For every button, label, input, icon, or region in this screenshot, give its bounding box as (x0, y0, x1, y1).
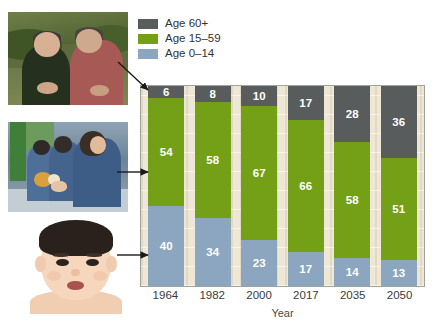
table-row: 28 58 14 (334, 86, 370, 286)
bar-segment-young: 34 (195, 218, 231, 286)
bar-segment-old: 28 (334, 86, 370, 142)
x-tick-2017: 2017 (288, 289, 324, 301)
bar-segment-young: 40 (148, 206, 184, 286)
bar-segment-young: 17 (288, 252, 324, 286)
legend-swatch-age-60-plus (138, 19, 158, 29)
legend-swatch-age-0-14 (138, 49, 158, 59)
bar-segment-old: 36 (381, 86, 417, 158)
bar-segment-young: 13 (381, 260, 417, 286)
x-tick-2000: 2000 (241, 289, 277, 301)
x-tick-1964: 1964 (147, 289, 183, 301)
legend-item-age-0-14: Age 0–14 (138, 46, 221, 61)
legend-label-age-0-14: Age 0–14 (165, 48, 214, 60)
bar-segment-adult: 58 (334, 142, 370, 258)
bar-segment-adult: 51 (381, 158, 417, 260)
stacked-bar-chart: 6 54 40 8 58 34 10 67 23 17 66 17 28 58 … (140, 85, 425, 287)
legend-swatch-age-15-59 (138, 34, 158, 44)
table-row: 36 51 13 (381, 86, 417, 286)
table-row: 6 54 40 (148, 86, 184, 286)
bar-segment-young: 23 (241, 240, 277, 286)
bar-segment-old: 6 (148, 86, 184, 98)
bar-segment-adult: 66 (288, 120, 324, 252)
legend-label-age-60-plus: Age 60+ (165, 18, 208, 30)
legend-item-age-15-59: Age 15–59 (138, 31, 221, 46)
bar-segment-adult: 58 (195, 102, 231, 218)
legend-item-age-60-plus: Age 60+ (138, 16, 221, 31)
bar-segment-old: 8 (195, 86, 231, 102)
legend-label-age-15-59: Age 15–59 (165, 33, 221, 45)
table-row: 10 67 23 (241, 86, 277, 286)
x-axis-title: Year (140, 307, 425, 319)
elderly-women-photo (8, 12, 128, 105)
bar-segment-adult: 54 (148, 98, 184, 206)
bar-segment-adult: 67 (241, 106, 277, 240)
bar-segment-old: 10 (241, 86, 277, 106)
baby-photo (24, 214, 128, 314)
bar-segment-young: 14 (334, 258, 370, 286)
x-tick-1982: 1982 (194, 289, 230, 301)
bar-group: 6 54 40 8 58 34 10 67 23 17 66 17 28 58 … (141, 86, 424, 286)
x-tick-2050: 2050 (382, 289, 418, 301)
factory-workers-photo (8, 122, 128, 212)
table-row: 17 66 17 (288, 86, 324, 286)
x-tick-2035: 2035 (335, 289, 371, 301)
chart-legend: Age 60+ Age 15–59 Age 0–14 (138, 16, 221, 61)
x-axis-tick-labels: 1964 1982 2000 2017 2035 2050 (140, 289, 425, 301)
bar-segment-old: 17 (288, 86, 324, 120)
table-row: 8 58 34 (195, 86, 231, 286)
